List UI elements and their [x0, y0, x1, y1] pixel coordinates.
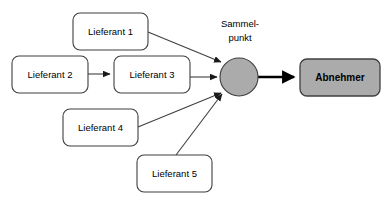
diagram-svg: Lieferant 1 Lieferant 2 Lieferant 3 Lief…	[0, 0, 389, 203]
node-sammelpunkt-label-line2: punkt	[228, 32, 252, 43]
edge-lieferant4-to-sammelpunkt	[138, 93, 221, 127]
node-sammelpunkt[interactable]	[220, 58, 258, 96]
node-lieferant-5-label: Lieferant 5	[152, 168, 197, 179]
node-lieferant-1[interactable]: Lieferant 1	[73, 13, 148, 50]
node-lieferant-3[interactable]: Lieferant 3	[114, 56, 190, 93]
node-lieferant-5[interactable]: Lieferant 5	[137, 155, 212, 192]
node-sammelpunkt-caption: Sammel- punkt	[221, 18, 259, 43]
node-lieferant-2-label: Lieferant 2	[28, 69, 73, 80]
node-abnehmer[interactable]: Abnehmer	[300, 59, 380, 96]
node-lieferant-3-label: Lieferant 3	[130, 69, 175, 80]
node-lieferant-1-label: Lieferant 1	[88, 26, 133, 37]
node-lieferant-2[interactable]: Lieferant 2	[12, 56, 88, 93]
edge-lieferant5-to-sammelpunkt	[176, 94, 222, 155]
node-sammelpunkt-label-line1: Sammel-	[221, 18, 259, 29]
node-lieferant-4[interactable]: Lieferant 4	[63, 109, 138, 146]
node-abnehmer-label: Abnehmer	[315, 72, 365, 83]
node-lieferant-4-label: Lieferant 4	[78, 122, 123, 133]
node-sammelpunkt-circle	[220, 58, 258, 96]
diagram-canvas: Lieferant 1 Lieferant 2 Lieferant 3 Lief…	[0, 0, 389, 203]
